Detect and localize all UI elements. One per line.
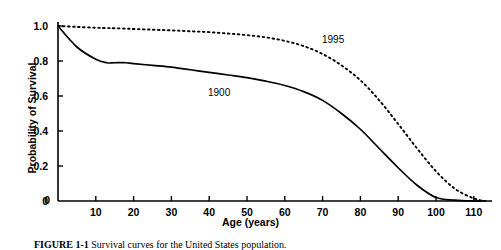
curve-1900 xyxy=(58,26,485,201)
x-axis-label: Age (years) xyxy=(0,216,501,228)
curve-1995 xyxy=(58,26,485,201)
series-label-1995: 1995 xyxy=(322,35,344,45)
series-label-1900: 1900 xyxy=(208,88,230,98)
caption-figure-number: FIGURE 1-1 xyxy=(34,239,89,250)
caption-body-text: Survival curves for the United States po… xyxy=(89,239,287,250)
figure-container: 00.20.40.60.81.0 01020304050607080901001… xyxy=(0,0,501,250)
figure-caption: FIGURE 1-1 Survival curves for the Unite… xyxy=(34,239,494,250)
y-axis-label: Probability of Survival xyxy=(26,38,38,198)
y-tick-label: 1.0 xyxy=(20,21,48,32)
